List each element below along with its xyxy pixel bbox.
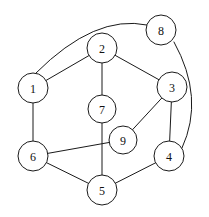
graph-edge-2-3: [115, 55, 159, 79]
graph-node-2[interactable]: 2: [87, 33, 117, 63]
graph-node-7[interactable]: 7: [88, 95, 116, 123]
graph-node-5[interactable]: 5: [87, 175, 117, 205]
graph-node-4[interactable]: 4: [154, 141, 184, 171]
graph-node-label-8: 8: [158, 24, 164, 38]
graph-node-label-6: 6: [30, 150, 36, 164]
graph-node-label-2: 2: [99, 42, 105, 56]
graph-node-8[interactable]: 8: [146, 15, 176, 45]
graph-node-9[interactable]: 9: [109, 126, 137, 154]
graph-edge-3-9: [133, 98, 162, 130]
graph-node-label-4: 4: [166, 150, 172, 164]
graph-node-label-5: 5: [99, 184, 105, 198]
graph-figure: 123456789: [0, 0, 209, 217]
graph-canvas: 123456789: [0, 0, 209, 217]
graph-node-label-3: 3: [169, 81, 175, 95]
graph-edge-5-6: [46, 163, 88, 184]
graph-edge-6-9: [48, 142, 109, 153]
graph-node-1[interactable]: 1: [18, 73, 48, 103]
graph-edge-1-2: [46, 56, 89, 81]
graph-node-label-7: 7: [99, 103, 105, 117]
node-layer: 123456789: [18, 15, 187, 205]
graph-node-label-9: 9: [120, 134, 126, 148]
graph-edge-3-4: [170, 102, 172, 141]
graph-edge-4-5: [115, 163, 155, 183]
graph-node-label-1: 1: [30, 82, 36, 96]
graph-node-3[interactable]: 3: [157, 72, 187, 102]
graph-node-6[interactable]: 6: [18, 141, 48, 171]
